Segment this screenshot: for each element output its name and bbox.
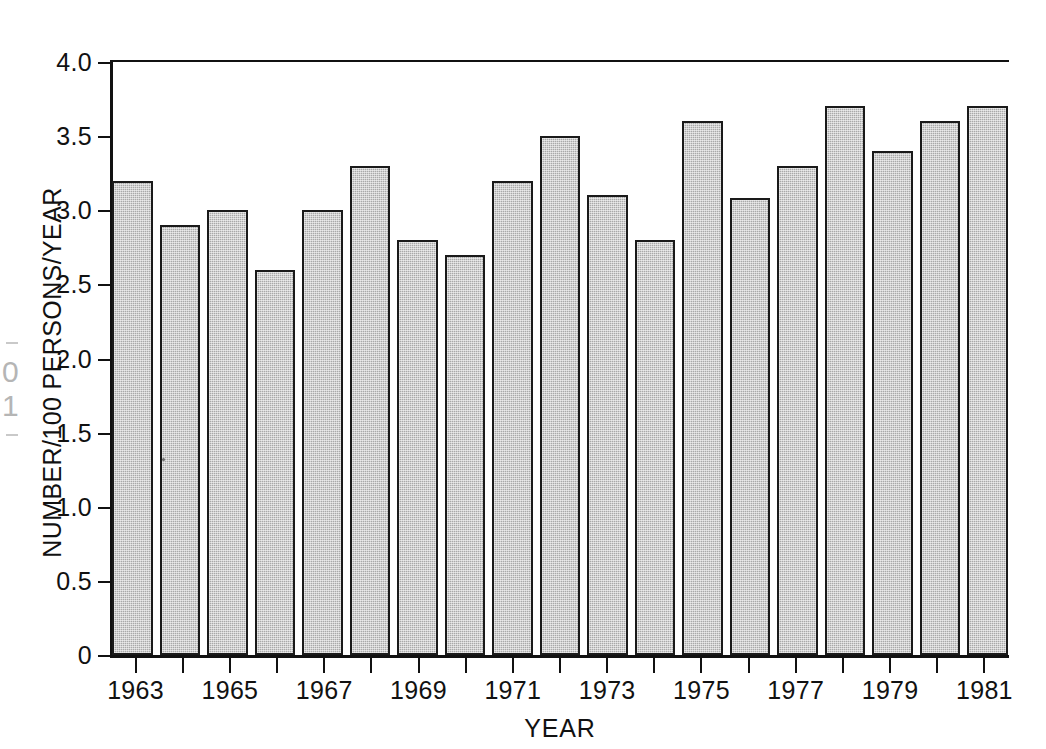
bar [492,181,533,655]
x-axis-tick [512,658,514,673]
bar [635,240,676,655]
y-axis-tick [98,284,112,286]
y-axis-title: NUMBER/100 PERSONS/YEAR [38,93,67,653]
bar [302,210,343,655]
x-axis-tick-label: 1969 [390,676,447,705]
y-axis-tick [98,655,112,657]
x-axis-tick [842,658,844,673]
x-axis-tick [465,658,467,673]
plot-area [112,62,1008,655]
bar [872,151,913,655]
bar [255,270,296,655]
bar [112,181,153,655]
y-axis-tick-label: 4.0 [0,48,92,77]
x-axis-tick-label: 1979 [862,676,919,705]
x-axis-tick-label: 1967 [296,676,353,705]
x-axis-tick [748,658,750,673]
x-axis-tick-label: 1977 [767,676,824,705]
bar [445,255,486,655]
x-axis-tick [323,658,325,673]
y-axis-tick [98,581,112,583]
scan-artifact-glyph: 01 [2,355,20,423]
x-axis-tick [983,658,985,673]
x-axis-tick [559,658,561,673]
x-axis-tick [889,658,891,673]
bar [397,240,438,655]
x-axis-tick [418,658,420,673]
x-axis-tick [795,658,797,673]
x-axis-tick-label: 1975 [673,676,730,705]
x-axis-tick [700,658,702,673]
x-axis-tick [135,658,137,673]
x-axis-tick-label: 1971 [484,676,541,705]
y-axis-tick [98,359,112,361]
bar [350,166,391,655]
y-axis-tick [98,433,112,435]
y-axis-tick [98,62,112,64]
x-axis-tick-label: 1963 [107,676,164,705]
x-axis-tick [936,658,938,673]
bar [730,198,771,655]
bar [160,225,201,655]
x-axis-tick [606,658,608,673]
scan-artifact-mark [6,342,18,344]
y-axis-tick [98,210,112,212]
bar [920,121,961,655]
x-axis-title: YEAR [112,714,1008,743]
bar [207,210,248,655]
bar [540,136,581,655]
y-axis-tick [98,136,112,138]
x-axis-tick [276,658,278,673]
bar [682,121,723,655]
bar [825,106,866,655]
x-axis-tick [182,658,184,673]
x-axis-tick-label: 1981 [956,676,1013,705]
x-axis-tick-label: 1965 [201,676,258,705]
x-axis-tick [229,658,231,673]
scan-artifact-mark [6,434,18,436]
x-axis-tick [370,658,372,673]
bar [967,106,1008,655]
scan-speck [162,458,165,461]
bar [587,195,628,655]
y-axis-tick [98,507,112,509]
bar-chart-figure: 00.51.01.52.02.53.03.54.0 19631965196719… [0,0,1046,749]
x-axis-tick [653,658,655,673]
bar-series [112,62,1008,655]
x-axis-tick-label: 1973 [579,676,636,705]
bar [777,166,818,655]
